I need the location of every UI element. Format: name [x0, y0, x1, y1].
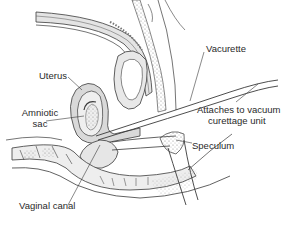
- label-speculum: Speculum: [192, 140, 234, 151]
- vacuum-curettage-diagram: Vacurette Uterus Amniotic sac Attaches t…: [0, 0, 296, 233]
- bladder: [114, 51, 147, 109]
- label-uterus: Uterus: [39, 70, 67, 81]
- label-vacurette: Vacurette: [206, 43, 246, 54]
- label-attaches-line2: curettage unit: [208, 115, 266, 126]
- label-attaches-line1: Attaches to vacuum: [197, 104, 280, 115]
- label-amniotic-sac-line2: sac: [15, 118, 65, 129]
- label-vaginal-canal: Vaginal canal: [19, 200, 75, 211]
- label-amniotic-sac-line1: Amniotic: [15, 107, 65, 118]
